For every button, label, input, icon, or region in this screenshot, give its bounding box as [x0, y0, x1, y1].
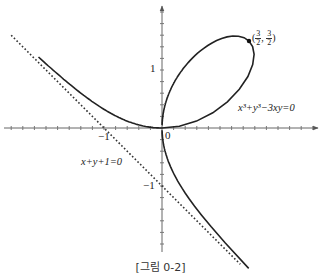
y-tick-label-1: 1	[150, 62, 156, 74]
folium-equation-label: x³+y³−3xy=0	[238, 102, 295, 113]
point-label: (32, 32)	[252, 30, 276, 47]
point-marker	[247, 39, 251, 43]
origin-label: 0	[165, 129, 171, 141]
asymptote-equation-label: x+y+1=0	[81, 156, 122, 167]
paren-close: )	[272, 32, 275, 43]
folium-curve	[39, 36, 255, 268]
x-tick-label-neg1: −1	[98, 130, 110, 142]
asymptote-line	[11, 35, 240, 264]
y-tick-label-neg1: −1	[143, 179, 155, 191]
figure-caption: [그림 0-2]	[0, 258, 321, 274]
